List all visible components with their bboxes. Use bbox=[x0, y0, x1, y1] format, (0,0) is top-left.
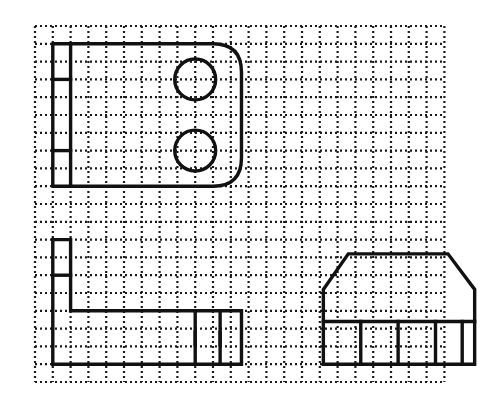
technical-drawing-canvas bbox=[0, 0, 503, 408]
drawing-page bbox=[0, 0, 503, 408]
